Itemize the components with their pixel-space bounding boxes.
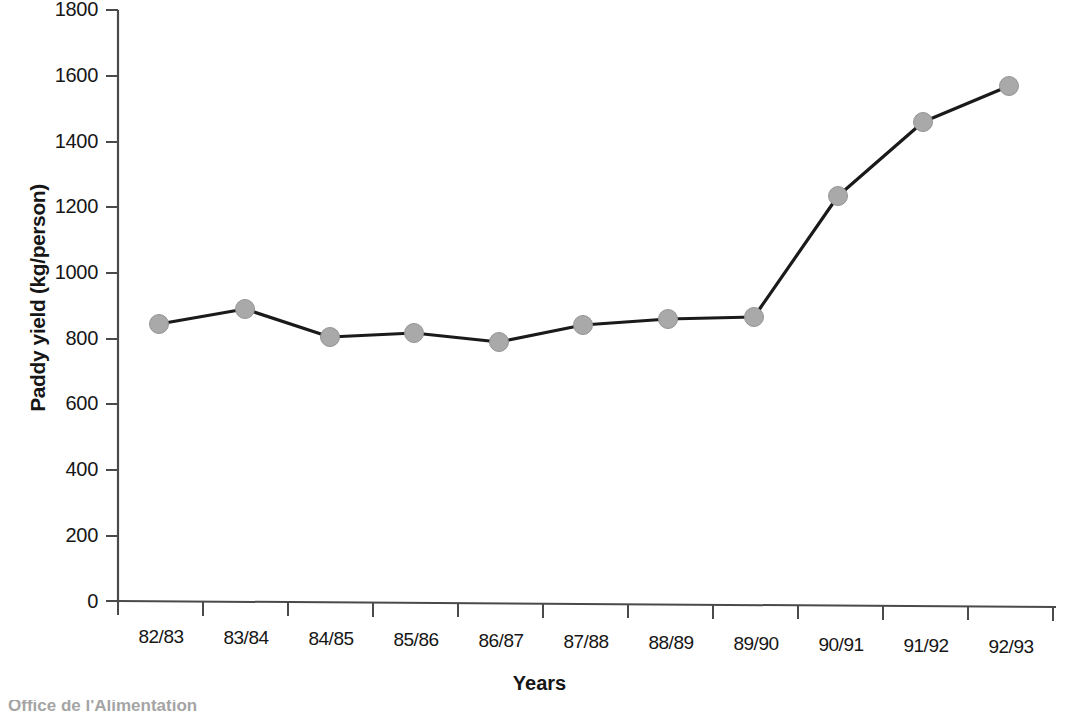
data-point [829, 187, 848, 206]
clipped-caption-text: Office de l'Alimentation [8, 700, 1079, 712]
x-axis-title: Years [0, 672, 1079, 695]
plot-area [0, 0, 1079, 712]
data-point [321, 328, 340, 347]
x-tick-label: 88/89 [625, 632, 717, 654]
x-tick-label: 92/93 [965, 636, 1057, 658]
line-chart: Paddy yield (kg/person) 1800 1600 1400 1… [0, 0, 1079, 712]
y-axis-ticks [106, 10, 118, 601]
x-tick-label: 82/83 [115, 626, 207, 648]
x-tick-label: 90/91 [795, 634, 887, 656]
x-tick-label: 91/92 [880, 635, 972, 657]
x-tick-label: 83/84 [200, 627, 292, 649]
data-point [405, 324, 424, 343]
data-point [236, 300, 255, 319]
data-point [150, 315, 169, 334]
data-point [745, 308, 764, 327]
clipped-caption: Office de l'Alimentation [0, 700, 1079, 712]
data-point [659, 310, 678, 329]
data-point [490, 333, 509, 352]
x-tick-label: 84/85 [285, 628, 377, 650]
x-tick-label: 87/88 [540, 631, 632, 653]
x-tick-label: 86/87 [455, 630, 547, 652]
x-tick-label: 85/86 [370, 629, 462, 651]
data-point [574, 316, 593, 335]
x-axis-line [118, 601, 1056, 607]
data-markers [150, 77, 1019, 352]
x-tick-label: 89/90 [710, 633, 802, 655]
data-point [914, 113, 933, 132]
data-line [159, 86, 1009, 342]
data-point [1000, 77, 1019, 96]
